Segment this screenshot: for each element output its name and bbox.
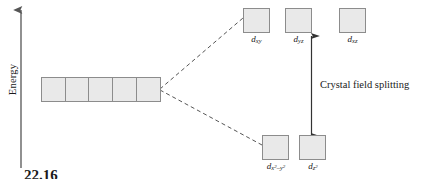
orbital-box-dxz — [339, 8, 366, 33]
figure-number-caption: 22.16 — [24, 167, 58, 179]
degenerate-orbital-box — [137, 78, 160, 101]
orbital-box-dyz — [285, 8, 312, 33]
orbital-label-dxy: dxy — [238, 34, 275, 44]
energy-axis-label: Energy — [7, 50, 18, 110]
connector-line-lower — [160, 90, 262, 145]
degenerate-orbital-set — [41, 77, 161, 102]
orbital-label-dxz: dxz — [334, 34, 371, 44]
degenerate-orbital-box — [113, 78, 137, 101]
orbital-subscript: yz — [298, 37, 303, 44]
orbital-box-dx2-y2 — [262, 135, 289, 160]
connector-line-upper — [160, 18, 243, 89]
sub-exponent: 2 — [315, 164, 318, 169]
orbital-label-dyz: dyz — [280, 34, 317, 44]
orbital-subscript: z2 — [313, 164, 318, 171]
orbital-label-dz2: dz2 — [294, 161, 332, 171]
degenerate-orbital-box — [42, 78, 66, 101]
crystal-field-splitting-figure: Energy dxy dyz dxz dx2–y2 dz2 Crystal fi… — [0, 0, 422, 179]
orbital-label-dx2-y2: dx2–y2 — [252, 161, 300, 171]
orbital-subscript: xz — [352, 37, 357, 44]
orbital-subscript: x2–y2 — [271, 164, 285, 171]
degenerate-orbital-box — [89, 78, 113, 101]
crystal-field-splitting-label: Crystal field splitting — [320, 79, 409, 90]
degenerate-orbital-box — [66, 78, 90, 101]
orbital-box-dz2 — [299, 135, 326, 160]
sub-exponent: 2 — [283, 164, 286, 169]
orbital-box-dxy — [243, 8, 270, 33]
orbital-subscript: xy — [256, 37, 262, 44]
